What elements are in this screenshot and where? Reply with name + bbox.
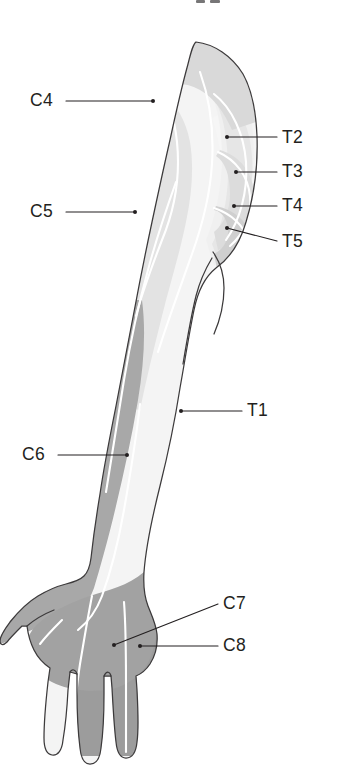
leader-c4 [66,99,155,103]
label-c7: C7 [223,593,246,613]
leader-c5 [66,210,137,214]
dermatome-figure: C4 C5 C6 C7 C8 T1 T2 T3 T4 T5 [0,0,352,773]
label-c4: C4 [30,90,53,110]
leader-t1 [179,409,242,413]
label-t3: T3 [282,161,303,181]
label-t1: T1 [247,400,268,420]
cropped-title-fragment [196,0,220,3]
label-c5: C5 [30,201,53,221]
dermatome-diagram: C4 C5 C6 C7 C8 T1 T2 T3 T4 T5 [0,0,352,773]
label-c6: C6 [22,444,45,464]
dermatome-regions [0,0,352,773]
label-t5: T5 [282,231,303,251]
label-t4: T4 [282,195,303,215]
label-t2: T2 [282,127,303,147]
label-c8: C8 [223,635,246,655]
